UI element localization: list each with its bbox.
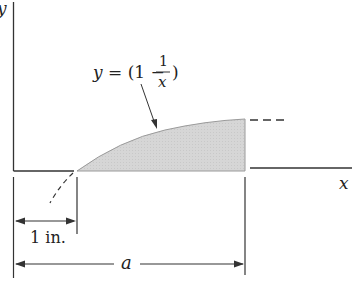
curve-dashed-below bbox=[50, 173, 73, 203]
dim-a-arrow-right bbox=[234, 261, 244, 268]
equation-suffix: ) bbox=[172, 62, 179, 82]
equation-prefix: y = (1 − bbox=[92, 62, 165, 82]
fraction-numerator: 1 bbox=[159, 53, 168, 69]
unit-length-label: 1 in. bbox=[30, 228, 66, 247]
pointer-arrow bbox=[141, 84, 155, 124]
pointer-arrowhead bbox=[151, 119, 157, 129]
dim-1in-arrow-right bbox=[66, 218, 76, 225]
x-axis-label: x bbox=[339, 173, 349, 193]
shaded-area bbox=[77, 119, 245, 171]
dim-a-arrow-left bbox=[15, 261, 25, 268]
area-diagram: y x y = (1 − 1 x ) 1 in. a bbox=[0, 0, 359, 294]
y-axis-label: y bbox=[0, 0, 7, 18]
dim-1in-arrow-left bbox=[15, 218, 25, 225]
span-label: a bbox=[121, 252, 132, 273]
fraction-denominator: x bbox=[158, 73, 167, 91]
